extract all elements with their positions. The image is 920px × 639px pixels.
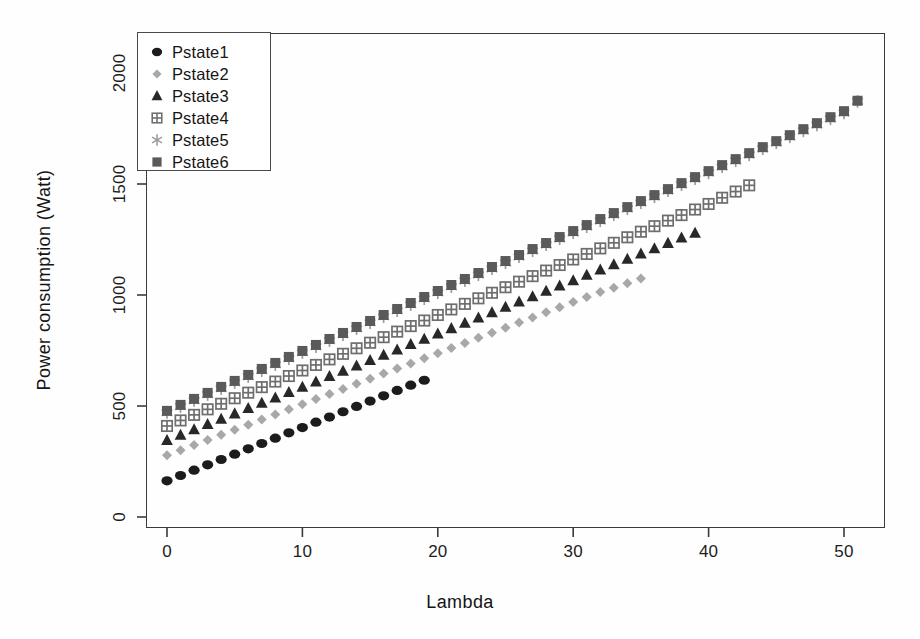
legend: Pstate1Pstate2Pstate3Pstate4Pstate5Pstat… [137, 32, 271, 171]
x-axis-title: Lambda [0, 592, 920, 613]
legend-item-pstate5[interactable]: Pstate5 [138, 129, 272, 151]
y-axis-title: Power consumption (Watt) [34, 169, 55, 390]
filled-circle-icon [138, 41, 172, 63]
filled-square-icon [138, 151, 172, 173]
legend-label: Pstate2 [172, 65, 229, 84]
x-tick-label: 50 [834, 542, 853, 562]
x-tick-label: 10 [293, 542, 312, 562]
series-pstate3 [161, 227, 701, 445]
filled-triangle-icon [138, 85, 172, 107]
series-pstate1 [161, 376, 429, 486]
legend-label: Pstate4 [172, 109, 229, 128]
x-tick-label: 40 [699, 542, 718, 562]
filled-diamond-icon [138, 63, 172, 85]
legend-item-pstate1[interactable]: Pstate1 [138, 41, 272, 63]
legend-item-pstate4[interactable]: Pstate4 [138, 107, 272, 129]
y-tick-label: 2000 [110, 54, 130, 93]
x-tick-label: 30 [564, 542, 583, 562]
asterisk-icon [138, 129, 172, 151]
series-pstate2 [162, 274, 646, 461]
squared-plus-icon [138, 107, 172, 129]
legend-label: Pstate6 [172, 153, 229, 172]
x-tick-label: 20 [428, 542, 447, 562]
legend-item-pstate6[interactable]: Pstate6 [138, 151, 272, 173]
legend-item-pstate2[interactable]: Pstate2 [138, 63, 272, 85]
legend-label: Pstate1 [172, 43, 229, 62]
y-tick-label: 0 [110, 512, 130, 522]
x-tick-label: 0 [162, 542, 172, 562]
legend-label: Pstate5 [172, 131, 229, 150]
y-tick-label: 500 [110, 392, 130, 421]
y-tick-label: 1000 [110, 276, 130, 315]
chart-canvas: 01020304050 0500100015002000 Lambda Powe… [0, 0, 920, 639]
y-tick-label: 1500 [110, 165, 130, 204]
legend-item-pstate3[interactable]: Pstate3 [138, 85, 272, 107]
series-pstate4 [162, 180, 755, 431]
legend-label: Pstate3 [172, 87, 229, 106]
